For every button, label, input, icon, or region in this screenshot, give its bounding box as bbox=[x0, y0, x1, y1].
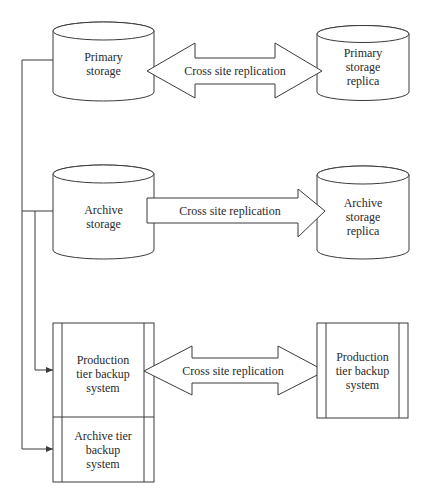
archive-storage-label: Archive storage bbox=[53, 203, 154, 231]
connector-archive-to-production-tier bbox=[35, 211, 53, 370]
primary-storage-label: Primary storage bbox=[53, 50, 154, 78]
arrowhead-icon bbox=[46, 367, 53, 373]
primary-storage-replica-label: Primary storage replica bbox=[317, 46, 409, 88]
archive-tier-backup-label: Archive tier backup system bbox=[62, 429, 144, 471]
archive-replication-label: Cross site replication bbox=[170, 204, 290, 218]
arrowhead-icon bbox=[46, 446, 53, 452]
production-tier-backup-label: Production tier backup system bbox=[62, 353, 144, 395]
primary-replication-label: Cross site replication bbox=[175, 64, 295, 78]
production-tier-backup-replica-label: Production tier backup system bbox=[326, 350, 399, 392]
backup-replication-label: Cross site replication bbox=[173, 364, 293, 378]
connector-lines bbox=[22, 60, 53, 452]
archive-storage-replica-label: Archive storage replica bbox=[317, 196, 409, 238]
connector-primary-to-archive-tier bbox=[22, 60, 53, 449]
